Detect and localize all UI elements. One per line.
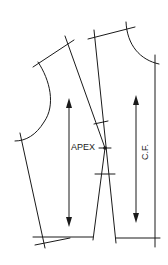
arrow-head-left-top bbox=[66, 98, 72, 108]
arrow-head-left-bottom bbox=[66, 217, 72, 227]
left-side-seam bbox=[20, 133, 45, 248]
arrow-head-right-top bbox=[133, 95, 139, 105]
bodice-pattern-diagram bbox=[0, 0, 168, 265]
apex-label: APEX bbox=[71, 142, 95, 153]
dart-left-leg bbox=[65, 36, 105, 148]
center-front-label: C.F. bbox=[140, 144, 151, 160]
apex-point bbox=[103, 146, 107, 150]
waist-line-left-lower bbox=[35, 238, 70, 245]
dart-right-leg bbox=[94, 30, 116, 243]
arrow-head-right-bottom bbox=[133, 213, 139, 223]
dart-left-leg-lower bbox=[93, 148, 105, 240]
left-armhole-curve bbox=[15, 62, 51, 141]
